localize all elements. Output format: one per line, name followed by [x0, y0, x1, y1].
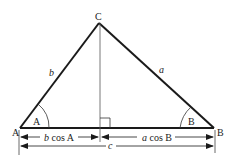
angle-b-label: B	[188, 116, 195, 127]
right-angle-marker	[100, 118, 110, 128]
vertex-b-label: B	[217, 127, 224, 138]
triangle-diagram: C A B b a A B b cos A a cos B c	[0, 0, 234, 167]
b-cos-a-label: b cos A	[44, 132, 75, 143]
vertex-c-label: C	[95, 11, 102, 22]
a-cos-b-label: a cos B	[142, 132, 172, 143]
side-b	[20, 23, 99, 128]
angle-a-label: A	[33, 116, 41, 127]
vertex-a-label: A	[12, 127, 20, 138]
side-b-label: b	[49, 67, 54, 78]
side-c-label: c	[108, 140, 113, 151]
side-a	[99, 23, 214, 128]
side-a-label: a	[159, 64, 164, 75]
